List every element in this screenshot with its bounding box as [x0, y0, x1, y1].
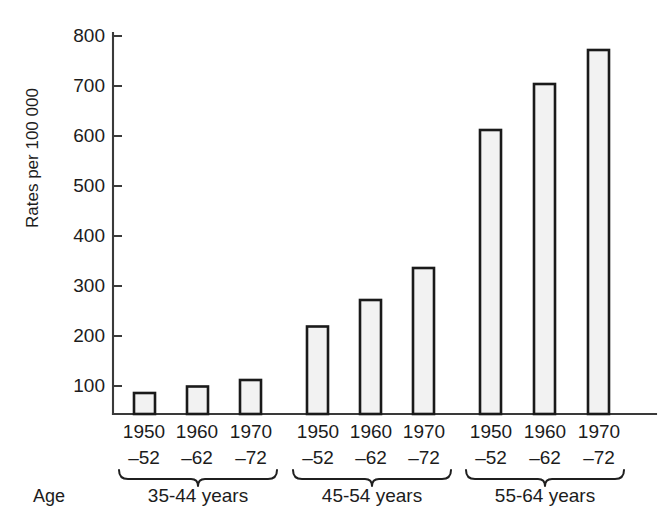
x-tick-label-g0-c0-line2: –52 [128, 447, 160, 468]
x-tick-label-g2-c0-line2: –52 [475, 447, 507, 468]
x-tick-label-g2-c1-line2: –62 [529, 447, 561, 468]
y-tick-label-100: 100 [73, 375, 105, 396]
x-tick-label-g0-c0-line1: 1950 [123, 421, 165, 442]
group-label-35-44: 35-44 years [148, 485, 248, 506]
group-label-45-54: 45-54 years [322, 485, 422, 506]
x-tick-label-g1-c2-line2: –72 [408, 447, 440, 468]
x-tick-label-g0-c2-line2: –72 [235, 447, 267, 468]
y-tick-label-800: 800 [73, 25, 105, 46]
bar-35-44-1970-72 [240, 380, 261, 414]
y-tick-label-500: 500 [73, 175, 105, 196]
x-tick-label-g0-c1-line1: 1960 [176, 421, 218, 442]
bar-55-64-1950-52 [480, 130, 501, 414]
y-tick-label-600: 600 [73, 125, 105, 146]
x-tick-label-g2-c2-line1: 1970 [578, 421, 620, 442]
chart-canvas: Rates per 100 000 100 200 300 400 500 60… [0, 0, 663, 528]
x-tick-label-g1-c0-line1: 1950 [297, 421, 339, 442]
x-tick-label-g1-c1-line1: 1960 [350, 421, 392, 442]
x-axis-label: Age [33, 486, 65, 506]
x-tick-label-g2-c2-line2: –72 [583, 447, 615, 468]
x-tick-label-g1-c1-line2: –62 [355, 447, 387, 468]
group-brace-35-44 [119, 470, 277, 486]
y-tick-label-400: 400 [73, 225, 105, 246]
bar-55-64-1970-72 [588, 50, 609, 414]
bar-35-44-1950-52 [134, 393, 155, 414]
group-label-55-64: 55-64 years [495, 485, 595, 506]
bar-chart-figure: Rates per 100 000 100 200 300 400 500 60… [0, 0, 663, 528]
group-brace-45-54 [293, 470, 451, 486]
x-tick-label-g2-c1-line1: 1960 [524, 421, 566, 442]
x-tick-label-g1-c0-line2: –52 [302, 447, 334, 468]
bar-45-54-1970-72 [413, 268, 434, 414]
y-axis-label: Rates per 100 000 [23, 88, 42, 228]
bar-45-54-1950-52 [307, 327, 328, 415]
x-tick-label-g0-c1-line2: –62 [181, 447, 213, 468]
y-tick-label-300: 300 [73, 275, 105, 296]
y-tick-label-200: 200 [73, 325, 105, 346]
group-brace-55-64 [466, 470, 624, 486]
x-tick-label-g0-c2-line1: 1970 [230, 421, 272, 442]
bar-55-64-1960-62 [534, 84, 555, 414]
y-tick-label-700: 700 [73, 75, 105, 96]
x-tick-label-g1-c2-line1: 1970 [403, 421, 445, 442]
x-tick-label-g2-c0-line1: 1950 [470, 421, 512, 442]
bar-45-54-1960-62 [360, 300, 381, 414]
bar-35-44-1960-62 [187, 387, 208, 415]
